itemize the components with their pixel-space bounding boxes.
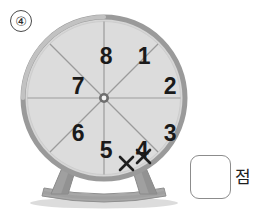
wheel-hub-inner: [102, 96, 107, 101]
spinner-wheel[interactable]: 1 2 3 4 5 6 7 8: [20, 10, 190, 210]
sector-label-2: 2: [159, 74, 181, 98]
sector-label-1: 1: [133, 44, 155, 68]
answer-unit-label: 점: [235, 167, 251, 187]
spinner-wheel-graphic: [20, 10, 190, 210]
sector-label-8: 8: [95, 44, 117, 68]
sector-label-7: 7: [67, 74, 89, 98]
answer-input-box[interactable]: [190, 155, 231, 199]
sector-label-5: 5: [95, 138, 117, 162]
worksheet-problem-canvas: ④: [0, 0, 273, 218]
sector-label-3: 3: [159, 121, 181, 145]
sector-label-6: 6: [67, 121, 89, 145]
sector-label-4: 4: [131, 138, 153, 162]
